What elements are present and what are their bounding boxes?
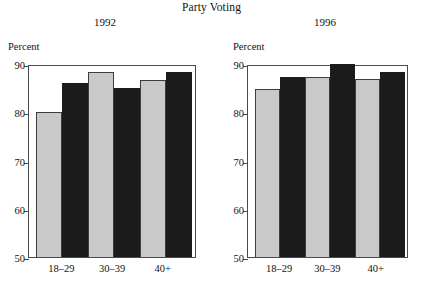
y-tick-label: 50 [15,254,26,265]
x-axis-labels-1996: 18–2930–3940+ [248,263,407,274]
x-axis-labels-1992: 18–2930–3940+ [29,263,195,274]
y-axis-label-right: Percent [233,41,265,52]
bar-light [305,77,330,257]
bar-dark [62,83,88,257]
bar-group [36,66,88,257]
bar-dark [330,64,355,257]
y-tick-label: 90 [234,61,245,72]
panel-1992: 18–2930–3940+ 5060708090 [28,65,196,258]
bar-group [305,66,355,257]
y-tick-label: 70 [15,157,26,168]
bar-dark [166,72,192,257]
figure-party-voting: Party Voting 1992 1996 Percent Percent 1… [0,0,423,304]
y-tick-label: 90 [15,61,26,72]
x-axis-label: 18–29 [36,263,87,274]
y-tick-label: 50 [234,254,245,265]
y-tick-label: 60 [15,206,26,217]
figure-title: Party Voting [0,1,423,13]
y-tick-label: 80 [234,109,245,120]
panel-subtitle-1996: 1996 [290,16,360,28]
y-tick-label: 80 [15,109,26,120]
bar-light [88,72,114,257]
bar-light [255,89,280,257]
y-tick-label: 60 [234,206,245,217]
bar-dark [280,77,305,257]
bar-light [355,79,380,257]
bar-group [255,66,305,257]
bar-group-container-1992 [29,66,195,257]
plot-area-1996: 18–2930–3940+ 5060708090 [247,65,408,258]
y-tick-label: 70 [234,157,245,168]
bar-group-container-1996 [248,66,407,257]
x-axis-label: 30–39 [303,263,351,274]
plot-area-1992: 18–2930–3940+ 5060708090 [28,65,196,258]
x-axis-label: 40+ [352,263,400,274]
x-axis-label: 30–39 [87,263,138,274]
x-axis-label: 40+ [137,263,188,274]
bar-dark [380,72,405,257]
bar-group [355,66,405,257]
y-axis-label-left: Percent [8,41,40,52]
bar-light [36,112,62,257]
bar-dark [114,88,140,257]
bar-group [88,66,140,257]
x-axis-label: 18–29 [255,263,303,274]
panel-subtitle-1992: 1992 [70,16,140,28]
bar-group [140,66,192,257]
panel-1996: 18–2930–3940+ 5060708090 [247,65,408,258]
bar-light [140,80,166,257]
